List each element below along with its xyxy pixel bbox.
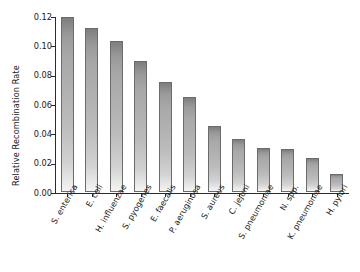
plot-area: 0.000.020.040.060.080.100.12 <box>55 17 349 193</box>
bar <box>134 61 147 192</box>
y-tick-label: 0.12 <box>34 12 52 23</box>
y-tick-label: 0.10 <box>34 41 52 52</box>
y-tick-label: 0.04 <box>34 129 52 140</box>
bar <box>61 17 74 192</box>
bar-chart-figure: Relative Recombination Rate 0.000.020.04… <box>0 0 360 272</box>
y-tick-label: 0.00 <box>34 188 52 199</box>
y-axis-line <box>55 17 56 194</box>
y-tick-label: 0.02 <box>34 158 52 169</box>
bar <box>85 28 98 192</box>
y-tick-label: 0.08 <box>34 70 52 81</box>
bar <box>159 82 172 192</box>
bar <box>183 97 196 192</box>
y-tick-label: 0.06 <box>34 100 52 111</box>
y-axis-title: Relative Recombination Rate <box>8 0 24 186</box>
bar <box>110 41 123 192</box>
